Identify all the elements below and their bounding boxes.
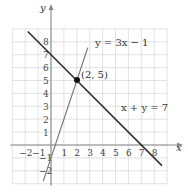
line-graph: −2−112345678−2−112345678 x y y = 3x − 1 … [0,0,188,192]
x-tick-label: 7 [139,148,145,158]
equation-label-1: y = 3x − 1 [94,37,149,48]
y-tick-label: 3 [43,102,49,112]
y-tick-label: 5 [43,76,49,86]
point-label: (2, 5) [81,69,108,80]
y-axis-arrow-icon [49,4,54,10]
y-tick-label: 8 [43,37,49,47]
x-tick-label: 3 [87,148,93,158]
axes [10,4,183,186]
equation-label-2: x + y = 7 [121,102,168,113]
x-tick-label: 1 [61,148,67,158]
x-tick-label: 5 [113,148,119,158]
y-tick-label: 6 [43,63,49,73]
intersection-point [74,77,80,83]
x-tick-label: 4 [100,148,106,158]
y-tick-label: 2 [43,115,49,125]
x-tick-label: 6 [126,148,132,158]
y-tick-label: 4 [43,89,49,99]
y-tick-label: 1 [43,128,49,138]
y-axis-label: y [39,2,46,13]
x-tick-label: −2 [19,148,32,158]
x-axis-label: x [176,142,182,153]
x-tick-label: 2 [74,148,80,158]
